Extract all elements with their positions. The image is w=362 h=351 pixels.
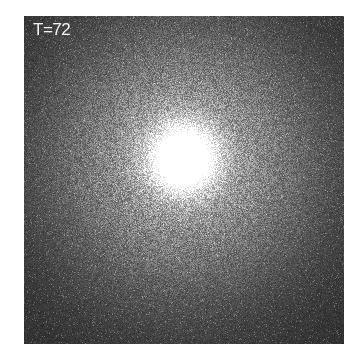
time-step-label: T=72 bbox=[33, 20, 70, 40]
density-field-image bbox=[24, 16, 344, 344]
simulation-snapshot: T=72 bbox=[24, 16, 344, 344]
